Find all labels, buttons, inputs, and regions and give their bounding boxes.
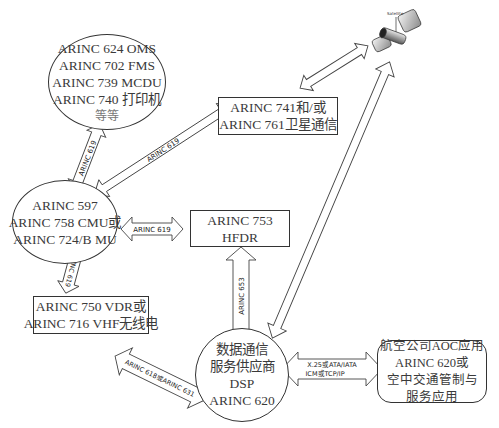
node-line: ARINC 724/B MU (13, 231, 117, 248)
node-line: ARINC 758 CMU或 (9, 214, 122, 231)
arrow-cmu-hfdr: ARINC 619 (121, 217, 183, 241)
node-line: ARINC 753 (207, 212, 273, 229)
node-line: 等等 (95, 108, 119, 125)
node-dsp: 数据通信 服务供应商 DSP ARINC 620 (195, 328, 289, 422)
node-line: ARINC 741和/或 (230, 99, 325, 116)
node-line: 空中交通管制与 (387, 372, 478, 389)
svg-text:ARINC 618或ARINC 631: ARINC 618或ARINC 631 (124, 357, 197, 399)
node-cmu: ARINC 597 ARINC 758 CMU或 ARINC 724/B MU (12, 180, 118, 264)
svg-text:X.25或ATA/IATA: X.25或ATA/IATA (307, 360, 357, 369)
node-line: ARINC 740 打印机 (53, 91, 161, 108)
node-line: 数据通信 (216, 341, 268, 358)
svg-text:ARINC 619: ARINC 619 (77, 139, 98, 177)
svg-text:ARINC 619: ARINC 619 (145, 137, 181, 164)
node-line: ARINC 750 VDR或 (36, 298, 146, 315)
node-vhf: ARINC 750 VDR或 ARINC 716 VHF无线电 (33, 296, 149, 334)
node-hfdr: ARINC 753 HFDR (190, 210, 290, 247)
node-line: DSP (230, 375, 255, 392)
node-line: ARINC 620或 (395, 355, 469, 372)
node-line: ARINC 761卫星通信 (219, 116, 337, 133)
node-line: ARINC 702 FMS (59, 57, 155, 74)
arrow-satcom-satellite (295, 38, 372, 96)
arrow-dsp-ground-app: X.25或ATA/IATA ICM或TCP/IP (282, 352, 382, 386)
node-line: HFDR (222, 229, 258, 246)
node-avionics-systems: ARINC 624 OMS ARINC 702 FMS ARINC 739 MC… (48, 34, 166, 130)
node-line: 服务供应商 (210, 358, 275, 375)
node-line: ARINC 739 MCDU (52, 74, 162, 91)
node-line: ARINC 624 OMS (58, 40, 156, 57)
node-line: 服务应用 (406, 389, 458, 406)
node-satcom: ARINC 741和/或 ARINC 761卫星通信 (218, 97, 338, 135)
svg-text:ARINC 653: ARINC 653 (238, 277, 246, 314)
satellite-label: Satellite (387, 11, 403, 16)
node-line: 航空公司AOC应用 (380, 338, 484, 355)
node-line: ARINC 716 VHF无线电 (24, 315, 159, 332)
node-line: ARINC 620 (209, 392, 275, 409)
node-ground-applications: 航空公司AOC应用 ARINC 620或 空中交通管制与 服务应用 (377, 340, 487, 403)
node-line: ARINC 597 (32, 197, 98, 214)
svg-text:ARINC 619: ARINC 619 (133, 226, 170, 234)
svg-text:ICM或TCP/IP: ICM或TCP/IP (305, 369, 344, 378)
